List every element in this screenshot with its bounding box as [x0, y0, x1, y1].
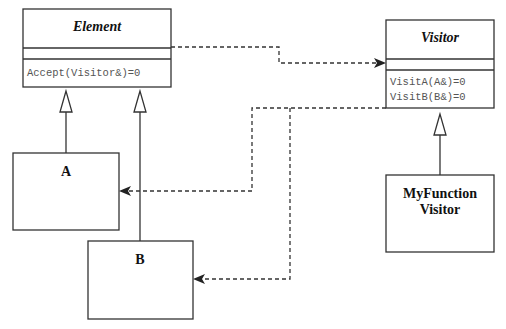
dependency-visitor-b: [193, 108, 290, 284]
class-element[interactable]: Element Accept(Visitor&)=0: [23, 9, 171, 87]
dependency-line: [171, 47, 378, 63]
generalization-b-element: [134, 91, 146, 241]
hollow-triangle-arrow-icon: [134, 91, 146, 112]
class-element-method-accept: Accept(Visitor&)=0: [27, 67, 140, 79]
dependency-line: [127, 108, 386, 191]
class-visitor-method-visitb: VisitB(B&)=0: [390, 91, 466, 103]
class-visitor-method-visita: VisitA(A&)=0: [390, 76, 466, 88]
class-my-function-visitor[interactable]: MyFunction Visitor: [386, 175, 494, 252]
class-b-name: B: [135, 252, 144, 267]
class-a[interactable]: A: [13, 153, 119, 230]
class-visitor-name: Visitor: [421, 30, 460, 45]
class-a-name: A: [61, 164, 72, 179]
uml-diagram: Element Accept(Visitor&)=0 Visitor Visit…: [0, 0, 506, 329]
dependency-element-visitor: [171, 47, 386, 68]
class-b[interactable]: B: [88, 241, 193, 319]
class-visitor[interactable]: Visitor VisitA(A&)=0 VisitB(B&)=0: [386, 20, 494, 108]
class-my-function-visitor-name-line1: MyFunction: [403, 186, 477, 201]
generalization-myfunctionvisitor-visitor: [434, 114, 446, 175]
hollow-triangle-arrow-icon: [60, 91, 72, 112]
class-my-function-visitor-name-line2: Visitor: [420, 202, 461, 217]
dependency-visitor-a: [119, 108, 386, 196]
class-element-name: Element: [72, 19, 122, 34]
arrow-head-icon: [193, 274, 205, 284]
dependency-line: [201, 108, 290, 279]
hollow-triangle-arrow-icon: [434, 114, 446, 135]
generalization-a-element: [60, 91, 72, 153]
